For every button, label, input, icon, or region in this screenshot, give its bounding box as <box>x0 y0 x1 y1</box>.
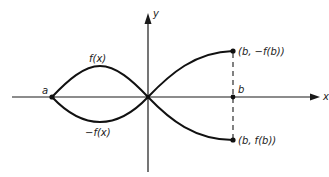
y-axis-arrow-icon <box>145 13 152 24</box>
label-a: a <box>42 85 48 96</box>
y-axis-label: y <box>152 8 160 19</box>
point-a <box>49 94 54 99</box>
x-axis: x <box>12 91 329 102</box>
label-b: b <box>238 84 244 95</box>
label-f-x: f(x) <box>89 53 106 64</box>
origin-point <box>146 95 150 99</box>
x-axis-arrow-icon <box>310 94 320 101</box>
point-b-fb <box>230 137 235 142</box>
point-b <box>231 95 236 100</box>
function-reflection-diagram: x y a b (b, −f(b)) (b, f(b)) f(x) −f(x) <box>0 0 329 177</box>
curve-neg-f-left <box>52 97 148 122</box>
y-axis: y <box>145 8 161 172</box>
label-upper-point: (b, −f(b)) <box>238 46 285 57</box>
label-neg-f-x: −f(x) <box>85 127 111 138</box>
curve-neg-f-right <box>148 51 233 97</box>
curve-f-right <box>148 97 233 140</box>
x-axis-label: x <box>322 91 329 102</box>
curve-f-left <box>52 66 148 97</box>
label-lower-point: (b, f(b)) <box>238 135 276 146</box>
point-b-neg-fb <box>230 48 235 53</box>
